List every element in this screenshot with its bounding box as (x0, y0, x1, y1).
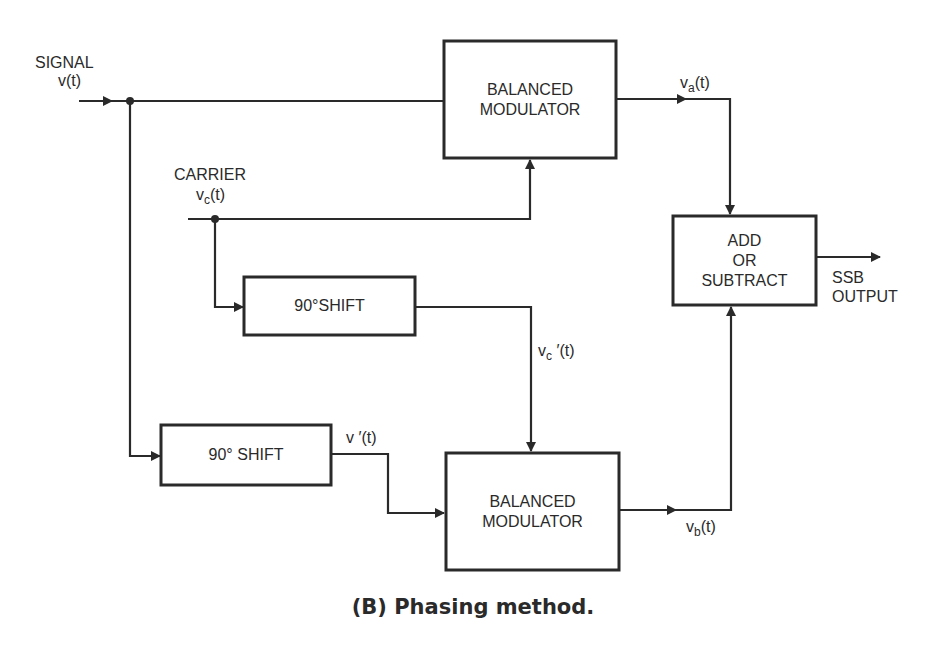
signal-shift-label: 90° SHIFT (161, 425, 331, 485)
ssb-output-label: SSB OUTPUT (832, 268, 898, 306)
signal-junction-dot (126, 97, 134, 105)
vc-prime-line (415, 307, 531, 451)
v-prime-label: v ′(t) (346, 429, 377, 447)
combiner-label: ADD OR SUBTRACT (673, 216, 816, 305)
top-modulator-label: BALANCED MODULATOR (444, 41, 616, 158)
carrier-junction-dot (211, 215, 219, 223)
signal-label: SIGNAL (35, 54, 94, 72)
v-prime-line (331, 454, 444, 513)
carrier-branch-line (215, 219, 243, 307)
vb-label: vb(t) (686, 518, 716, 537)
vc-prime-label: vc ′(t) (538, 342, 575, 361)
signal-branch-line (130, 101, 160, 456)
carrier-label: CARRIER (174, 166, 246, 184)
carrier-shift-label: 90°SHIFT (244, 277, 415, 335)
signal-var-label: v(t) (58, 72, 81, 90)
vb-line (674, 307, 731, 510)
carrier-var-label: vc(t) (196, 186, 225, 205)
bottom-modulator-label: BALANCED MODULATOR (446, 453, 619, 570)
va-line (684, 99, 730, 214)
va-label: va(t) (680, 74, 710, 93)
figure-caption: (B) Phasing method. (0, 595, 946, 619)
